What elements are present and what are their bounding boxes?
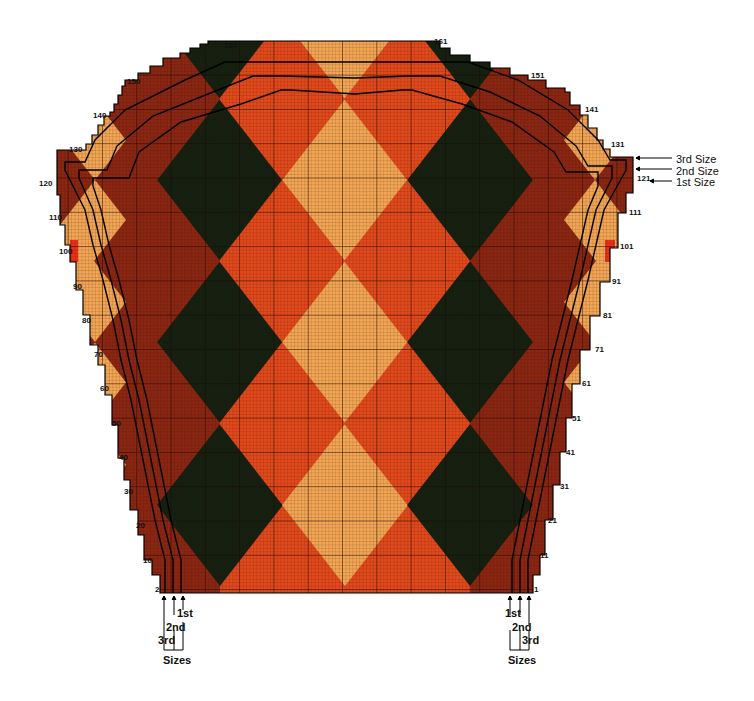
row-label-left: 80 (82, 317, 91, 325)
row-label-right: 61 (582, 380, 591, 388)
row-label-left: 40 (119, 454, 128, 462)
bottom-left-1st: 1st (177, 608, 193, 619)
row-label-left: 50 (112, 420, 121, 428)
row-label-left: 70 (94, 351, 103, 359)
row-label-right: 11 (540, 552, 548, 560)
row-label-right: 91 (612, 278, 621, 286)
row-label-right: 161 (434, 38, 447, 46)
bottom-right-2nd: 2nd (512, 622, 532, 633)
knitting-chart (0, 0, 754, 701)
row-label-left: 160 (224, 42, 237, 50)
row-label-left: 150 (127, 78, 140, 86)
row-label-right: 101 (620, 243, 633, 251)
chart-body (0, 0, 754, 701)
row-label-right: 81 (603, 312, 612, 320)
row-label-right: 1 (534, 586, 538, 594)
size-key-1st: 1st Size (676, 177, 715, 188)
bottom-right-3rd: 3rd (522, 635, 539, 646)
row-label-right: 151 (531, 72, 544, 80)
size-key-3rd: 3rd Size (676, 154, 716, 165)
row-label-right: 41 (566, 449, 575, 457)
row-label-left: 90 (73, 283, 82, 291)
row-label-right: 121 (637, 175, 650, 183)
row-label-left: 100 (59, 248, 72, 256)
row-label-left: 130 (69, 146, 82, 154)
row-label-left: 140 (93, 112, 106, 120)
bottom-left-caption: Sizes (163, 655, 191, 666)
bottom-right-caption: Sizes (508, 655, 536, 666)
row-label-right: 71 (595, 346, 604, 354)
row-label-right: 111 (629, 209, 641, 217)
row-label-right: 21 (548, 517, 557, 525)
row-label-right: 51 (572, 415, 581, 423)
row-label-left: 10 (143, 557, 152, 565)
row-label-right: 131 (611, 141, 624, 149)
row-label-left: 120 (39, 180, 52, 188)
row-label-left: 20 (136, 522, 145, 530)
row-label-left: 60 (100, 385, 109, 393)
row-label-left: 110 (49, 214, 62, 222)
row-label-left: 30 (124, 488, 133, 496)
row-label-right: 31 (560, 483, 569, 491)
bottom-right-1st: 1st (505, 608, 521, 619)
bottom-left-2nd: 2nd (166, 622, 186, 633)
row-label-right: 141 (585, 106, 598, 114)
row-label-left: 2 (155, 586, 159, 594)
bottom-left-3rd: 3rd (158, 635, 175, 646)
